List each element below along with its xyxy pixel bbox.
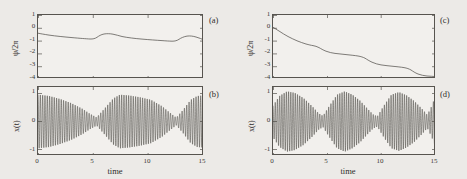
panel-a-ytick-1: 1 — [19, 11, 35, 18]
panel-d-xtick-0: 0 — [264, 158, 280, 165]
panel-c-ytick-m4: -4 — [254, 74, 270, 81]
panel-d-xtick-15: 15 — [426, 158, 442, 165]
panel-d-ytick-m1: -1 — [254, 146, 270, 153]
panel-c-phase-curve — [273, 27, 435, 76]
figure-panel-grid: ψ/2π 1 0 -1 -2 -3 -4 — [0, 0, 467, 179]
panel-a-ytick-m1: -1 — [19, 36, 35, 43]
panel-d-plot — [272, 86, 435, 155]
panel-d-frame — [272, 86, 435, 155]
panel-a-ytick-m4: -4 — [19, 74, 35, 81]
panel-d-xtick-10: 10 — [372, 158, 388, 165]
panel-d-svg — [273, 87, 435, 155]
panel-a-phase-curve — [38, 33, 203, 41]
panel-a-frame — [37, 14, 203, 78]
panel-c-ytick-1: 1 — [254, 11, 270, 18]
panel-c-ytick-m3: -3 — [254, 61, 270, 68]
panel-b-oscillation-curve — [38, 95, 203, 149]
panel-b-xtick-10: 10 — [139, 158, 155, 165]
panel-c-plot — [272, 14, 435, 78]
panel-d-tag: (d) — [440, 90, 450, 99]
panel-b-xtick-5: 5 — [84, 158, 100, 165]
panel-b-xtick-15: 15 — [194, 158, 210, 165]
panel-a-ytick-m3: -3 — [19, 61, 35, 68]
panel-b-ytick-m1: -1 — [19, 146, 35, 153]
panel-d-xtick-5: 5 — [318, 158, 334, 165]
panel-d-x-axis-label: time — [323, 167, 373, 176]
panel-b-plot — [37, 86, 203, 155]
panel-c-frame — [272, 14, 435, 78]
panel-b-ytick-1: 1 — [19, 88, 35, 95]
panel-c-svg — [273, 15, 435, 78]
panel-c-tag: (c) — [440, 16, 449, 25]
panel-a-svg — [38, 15, 203, 78]
panel-a-ytick-0: 0 — [19, 23, 35, 30]
panel-b-x-axis-label: time — [90, 167, 140, 176]
panel-d-ytick-0: 0 — [254, 117, 270, 124]
panel-a-ytick-m2: -2 — [19, 48, 35, 55]
panel-c-ytick-m2: -2 — [254, 48, 270, 55]
panel-b-xtick-0: 0 — [29, 158, 45, 165]
panel-c-ytick-m1: -1 — [254, 36, 270, 43]
panel-d-oscillation-curve — [273, 92, 435, 152]
panel-d-ytick-1: 1 — [254, 88, 270, 95]
panel-b-frame — [37, 86, 203, 155]
panel-b-svg — [38, 87, 203, 155]
panel-a-tag: (a) — [209, 16, 218, 25]
panel-b-ytick-0: 0 — [19, 117, 35, 124]
figure-column-right: ψ/2π 1 0 -1 -2 -3 -4 — [233, 0, 466, 179]
figure-column-left: ψ/2π 1 0 -1 -2 -3 -4 — [0, 0, 233, 179]
panel-c-ytick-0: 0 — [254, 23, 270, 30]
panel-a-plot — [37, 14, 203, 78]
panel-b-tag: (b) — [209, 90, 219, 99]
